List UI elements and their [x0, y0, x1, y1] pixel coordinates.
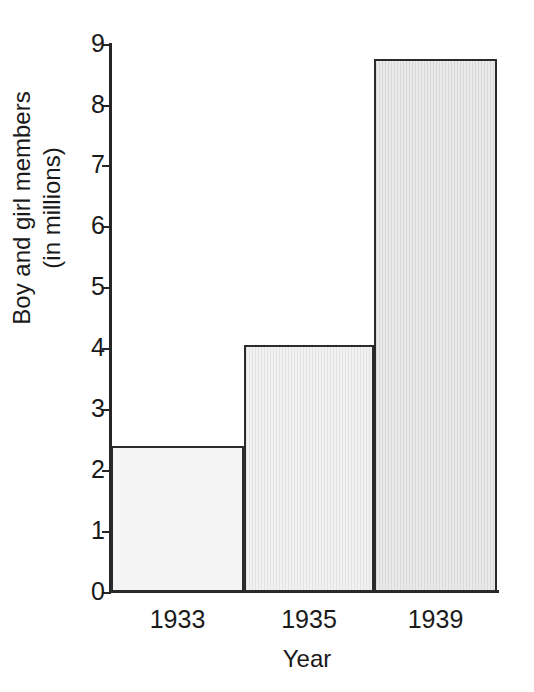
- x-axis-title-text: Year: [203, 645, 332, 672]
- x-category-label-1939: 1939: [374, 604, 497, 634]
- y-tick-label: 9: [91, 31, 105, 56]
- y-tick-label: 6: [91, 213, 105, 238]
- y-tick-label: 0: [91, 579, 105, 604]
- bar-1935: [244, 345, 374, 592]
- y-tick-label: 1: [91, 518, 105, 543]
- plot-area: [111, 44, 497, 592]
- y-tick-label: 4: [91, 335, 105, 360]
- y-tick-label: 3: [91, 396, 105, 421]
- y-tick-label: 8: [91, 92, 105, 117]
- y-tick-label: 5: [91, 274, 105, 299]
- bar-chart: 9 8 7 6 5 4 3 2 1 0 1933 1935: [0, 0, 534, 692]
- y-tick-label: 2: [91, 457, 105, 482]
- bar-1933: [111, 446, 244, 592]
- y-axis-title-line2: (in millions): [37, 58, 67, 358]
- y-tick-label: 7: [91, 152, 105, 177]
- x-category-label-1933: 1933: [111, 604, 244, 634]
- x-category-label-1935: 1935: [244, 604, 374, 634]
- y-axis-title: Boy and girl members (in millions): [7, 58, 67, 358]
- y-axis-title-line1: Boy and girl members: [8, 91, 35, 324]
- bar-1939: [374, 59, 497, 592]
- x-axis-title: Year: [0, 645, 534, 673]
